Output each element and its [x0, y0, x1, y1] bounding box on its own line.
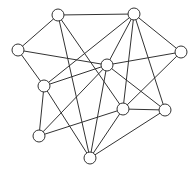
node-F — [38, 80, 50, 92]
edge-F-I — [39, 86, 44, 136]
graph-canvas — [0, 0, 195, 175]
node-E — [101, 59, 113, 71]
node-B — [128, 8, 140, 20]
edge-C-E — [18, 50, 107, 65]
edge-C-F — [18, 50, 44, 86]
node-H — [159, 104, 171, 116]
edge-B-H — [134, 14, 165, 110]
node-C — [12, 44, 24, 56]
node-D — [175, 46, 187, 58]
edge-A-C — [18, 15, 58, 50]
node-I — [33, 130, 45, 142]
edge-E-H — [107, 65, 165, 110]
edge-A-J — [58, 15, 90, 158]
edge-B-D — [134, 14, 181, 52]
graph-diagram — [0, 0, 195, 175]
node-G — [117, 103, 129, 115]
nodes — [12, 8, 187, 164]
edge-H-J — [90, 110, 165, 158]
edge-E-J — [90, 65, 107, 158]
node-J — [84, 152, 96, 164]
node-A — [52, 9, 64, 21]
edge-B-E — [107, 14, 134, 65]
edge-A-B — [58, 14, 134, 15]
